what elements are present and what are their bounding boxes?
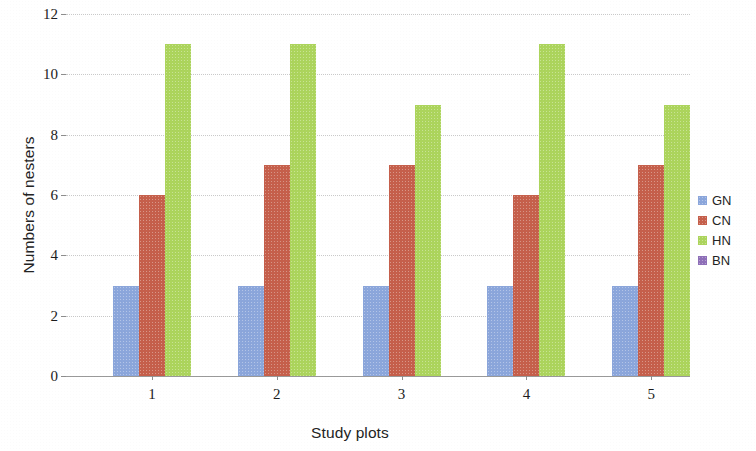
chart-legend: GNCNHNBN (698, 190, 756, 270)
y-tick-label: 6 (51, 187, 59, 204)
y-tick-mark (61, 195, 66, 196)
x-tick-mark (402, 376, 403, 380)
y-tick-mark (61, 135, 66, 136)
legend-item-gn[interactable]: GN (698, 190, 756, 210)
x-axis-title: Study plots (0, 424, 700, 442)
bar-cn-plot-2 (264, 165, 290, 376)
y-tick-label: 0 (51, 368, 59, 385)
bar-hn-plot-2 (290, 44, 316, 376)
bar-hn-plot-4 (539, 44, 565, 376)
y-tick-mark (61, 74, 66, 75)
bar-cn-plot-1 (139, 195, 165, 376)
x-axis-line (66, 376, 690, 377)
bar-gn-plot-5 (612, 286, 638, 377)
legend-label: GN (712, 194, 732, 207)
x-tick-label: 5 (647, 386, 655, 403)
legend-swatch-bn-icon (698, 256, 707, 265)
plot-area: 024681012 (66, 14, 690, 376)
bar-gn-plot-2 (238, 286, 264, 377)
y-tick-label: 8 (51, 126, 59, 143)
bar-group (113, 14, 217, 376)
y-tick-mark (61, 14, 66, 15)
legend-swatch-cn-icon (698, 216, 707, 225)
y-tick-label: 10 (43, 66, 58, 83)
y-tick-label: 4 (51, 247, 59, 264)
legend-swatch-hn-icon (698, 236, 707, 245)
x-tick-label: 4 (523, 386, 531, 403)
y-tick-mark (61, 376, 66, 377)
y-tick-label: 2 (51, 307, 59, 324)
bar-cn-plot-4 (513, 195, 539, 376)
bar-gn-plot-4 (487, 286, 513, 377)
bar-hn-plot-5 (664, 105, 690, 377)
x-tick-mark (277, 376, 278, 380)
x-tick-label: 1 (148, 386, 156, 403)
bar-group (363, 14, 467, 376)
legend-item-hn[interactable]: HN (698, 230, 756, 250)
y-axis-title: Numbers of nesters (20, 105, 38, 305)
bar-group (487, 14, 591, 376)
legend-label: HN (712, 234, 731, 247)
legend-label: CN (712, 214, 731, 227)
bar-cn-plot-3 (389, 165, 415, 376)
x-tick-mark (651, 376, 652, 380)
y-tick-mark (61, 255, 66, 256)
bar-gn-plot-3 (363, 286, 389, 377)
y-tick-label: 12 (43, 6, 58, 23)
bar-cn-plot-5 (638, 165, 664, 376)
bar-hn-plot-3 (415, 105, 441, 377)
legend-item-bn[interactable]: BN (698, 250, 756, 270)
x-tick-label: 3 (398, 386, 406, 403)
legend-item-cn[interactable]: CN (698, 210, 756, 230)
legend-swatch-gn-icon (698, 196, 707, 205)
bar-group (238, 14, 342, 376)
x-tick-label: 2 (273, 386, 281, 403)
bar-hn-plot-1 (165, 44, 191, 376)
x-tick-mark (152, 376, 153, 380)
y-tick-mark (61, 316, 66, 317)
x-tick-mark (526, 376, 527, 380)
bar-gn-plot-1 (113, 286, 139, 377)
legend-label: BN (712, 254, 730, 267)
bar-chart-figure: Numbers of nesters 024681012 Study plots… (0, 0, 756, 451)
